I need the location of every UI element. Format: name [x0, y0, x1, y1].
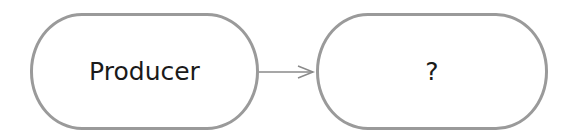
unknown-node: ?: [316, 13, 548, 130]
unknown-label: ?: [425, 57, 438, 86]
